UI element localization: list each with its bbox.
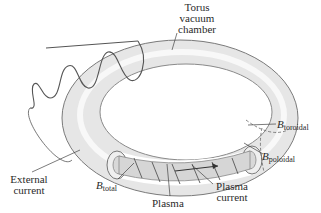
b-total-subscript: total: [103, 184, 117, 193]
b-total-label: Btotal: [96, 180, 117, 194]
b-toroidal-symbol: B: [277, 118, 284, 130]
tokamak-diagram: Torus vacuum chamber External current Bt…: [0, 0, 321, 213]
external-current-label: External current: [6, 174, 52, 196]
b-toroidal-subscript: toroidal: [284, 123, 309, 132]
b-total-symbol: B: [96, 179, 103, 191]
plasma-label: Plasma: [152, 198, 184, 209]
b-toroidal-label: Btoroidal: [277, 119, 309, 133]
external-current-line2: current: [6, 185, 52, 196]
b-poloidal-symbol: B: [262, 150, 269, 162]
plasma-current-line2: current: [214, 192, 250, 203]
torus-label-line3: chamber: [172, 24, 222, 35]
torus-vacuum-chamber-label: Torus vacuum chamber: [172, 2, 222, 35]
plasma-text: Plasma: [152, 197, 184, 209]
b-poloidal-label: Bpoloidal: [262, 151, 295, 165]
b-poloidal-subscript: poloidal: [269, 155, 295, 164]
plasma-current-label: Plasma current: [214, 181, 250, 203]
